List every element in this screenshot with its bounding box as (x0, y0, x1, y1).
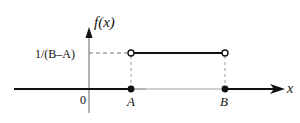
point-a-label: A (126, 94, 135, 109)
level-label: 1/(B–A) (35, 47, 75, 61)
origin-label: 0 (80, 93, 86, 107)
y-axis-label: f(x) (94, 14, 115, 31)
y-axis-arrow-icon (86, 27, 93, 38)
x-axis-label: x (286, 81, 294, 96)
uniform-distribution-diagram: f(x) 1/(B–A) 0 A B x (0, 0, 300, 123)
open-point-a-icon (128, 50, 134, 56)
closed-point-a-icon (128, 86, 135, 93)
closed-point-b-icon (222, 86, 229, 93)
open-point-b-icon (222, 50, 228, 56)
point-b-label: B (220, 94, 228, 109)
